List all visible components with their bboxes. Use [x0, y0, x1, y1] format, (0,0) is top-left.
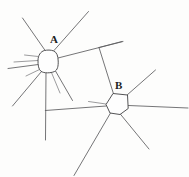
a-process-left-short: [25, 55, 39, 57]
b-process-right: [128, 106, 188, 109]
b-process-up-right: [127, 70, 156, 96]
figure-canvas: A B: [0, 0, 189, 177]
a-process-down-center: [46, 73, 47, 140]
cell-a-soma: [38, 50, 58, 73]
b-process-down-left: [74, 113, 111, 176]
a-process-left-long: [8, 65, 38, 69]
b-process-left-stub: [89, 102, 107, 105]
b-process-left-horizontal: [45, 106, 106, 111]
cell-a-label: A: [50, 34, 58, 45]
cell-b-soma: [106, 94, 128, 115]
a-process-down-left: [13, 72, 42, 107]
cell-diagram-drawing: [0, 0, 189, 177]
a-process-left-lower: [26, 70, 40, 77]
a-process-left-mid: [14, 61, 38, 63]
b-process-up-left-to-a-branch: [99, 48, 114, 94]
a-process-up-left: [23, 18, 46, 51]
cell-b-label: B: [115, 80, 122, 91]
a-process-down-right-short: [52, 73, 61, 93]
a-process-down-right-long: [56, 71, 73, 101]
b-process-down-right: [121, 114, 150, 149]
a-process-up-right: [54, 12, 89, 51]
b-branch-tip: [99, 42, 122, 48]
